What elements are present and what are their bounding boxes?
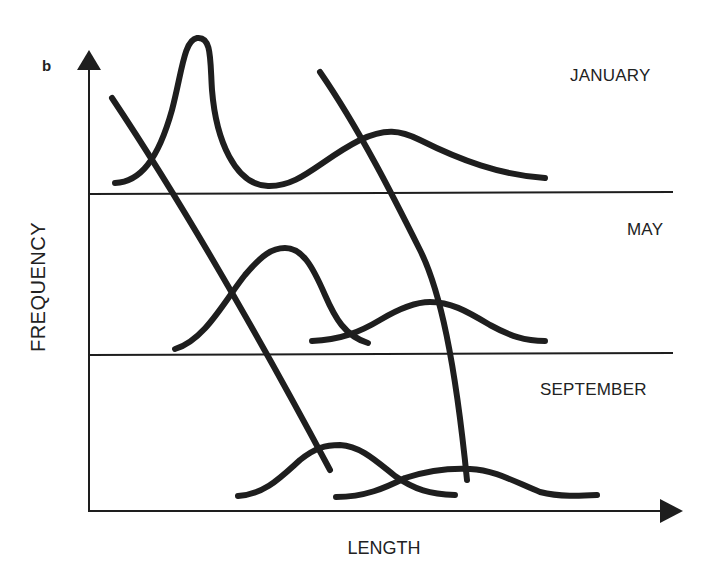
panel-label-september: SEPTEMBER [540,380,647,400]
length-frequency-figure: b JANUARY MAY SEPTEMBER FREQUENCY LENGTH [0,0,711,580]
panel-label-january: JANUARY [570,66,650,86]
panel-label-may: MAY [627,220,663,240]
divider-may-september [89,353,673,355]
may-cohort2-curve [312,302,545,341]
may-cohort1-curve [175,248,368,349]
divider-january-may [89,192,673,194]
january-cohort1-curve [115,38,545,186]
cohort1-track-line [112,98,330,470]
y-axis-arrow-icon [77,50,101,70]
x-axis-label: LENGTH [347,538,420,559]
plot-area [0,0,711,580]
x-axis-arrow-icon [660,499,683,523]
panel-letter: b [42,57,51,74]
y-axis-label: FREQUENCY [27,222,50,352]
